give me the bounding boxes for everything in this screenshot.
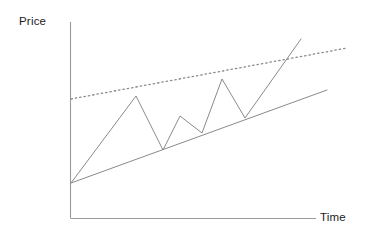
rising-wedge-chart: Price Time	[0, 0, 368, 237]
support-trendline	[71, 90, 327, 183]
chart-canvas	[0, 0, 368, 237]
price-zigzag-line	[71, 39, 301, 183]
x-axis-label: Time	[320, 212, 346, 224]
resistance-trendline	[71, 48, 347, 99]
y-axis-label: Price	[19, 16, 46, 28]
